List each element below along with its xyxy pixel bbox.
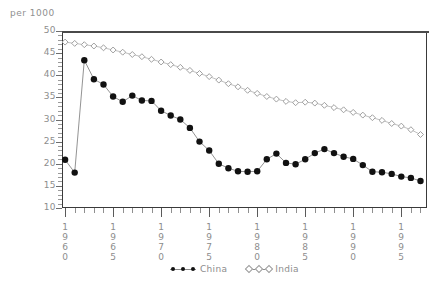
legend-item-india[interactable]: India: [245, 264, 299, 274]
x-axis-minor-tick: [392, 208, 393, 213]
x-axis-minor-tick: [132, 208, 133, 213]
x-axis-major-tick: [209, 208, 210, 217]
x-axis-major-tick: [113, 208, 114, 217]
x-axis-minor-tick: [344, 208, 345, 213]
y-axis-tick-label: 35: [2, 91, 56, 101]
y-axis-labels: 504540353025201510: [0, 0, 56, 287]
x-axis-minor-tick: [219, 208, 220, 213]
x-axis-minor-tick: [363, 208, 364, 213]
x-axis-minor-tick: [123, 208, 124, 213]
x-axis-minor-tick: [94, 208, 95, 213]
y-axis-tick-label: 30: [2, 114, 56, 124]
x-axis-major-tick: [401, 208, 402, 217]
x-axis-major-tick: [305, 208, 306, 217]
x-axis-minor-tick: [372, 208, 373, 213]
x-axis-tick-label: 1985: [298, 222, 312, 262]
chart-legend: ChinaIndia: [170, 262, 299, 276]
x-axis-minor-tick: [276, 208, 277, 213]
x-axis-minor-tick: [324, 208, 325, 213]
x-axis-minor-tick: [200, 208, 201, 213]
plot-frame: [62, 31, 427, 208]
x-axis-major-tick: [65, 208, 66, 217]
x-axis-minor-tick: [315, 208, 316, 213]
x-axis-minor-tick: [228, 208, 229, 213]
legend-key-filled-circle-icon: [170, 269, 196, 270]
x-axis-minor-tick: [190, 208, 191, 213]
x-axis-minor-tick: [286, 208, 287, 213]
x-axis-major-tick: [257, 208, 258, 217]
y-axis-tick-label: 50: [2, 25, 56, 35]
x-axis-major-tick: [161, 208, 162, 217]
legend-key-open-diamond-icon: [245, 269, 271, 270]
x-axis-minor-tick: [75, 208, 76, 213]
x-axis-major-tick: [353, 208, 354, 217]
x-axis-minor-tick: [142, 208, 143, 213]
x-axis-minor-tick: [382, 208, 383, 213]
x-axis-tick-label: 1980: [250, 222, 264, 262]
x-axis-minor-tick: [180, 208, 181, 213]
x-axis-minor-tick: [334, 208, 335, 213]
x-axis-minor-tick: [103, 208, 104, 213]
x-axis-tick-label: 1965: [106, 222, 120, 262]
x-axis-minor-tick: [296, 208, 297, 213]
x-axis-tick-label: 1995: [394, 222, 408, 262]
y-axis-tick-label: 40: [2, 69, 56, 79]
x-axis-tick-label: 1970: [154, 222, 168, 262]
legend-item-china[interactable]: China: [170, 264, 227, 274]
y-axis-tick: [56, 208, 62, 209]
x-axis-minor-tick: [152, 208, 153, 213]
x-axis-minor-tick: [420, 208, 421, 213]
x-axis-tick-label: 1975: [202, 222, 216, 262]
y-axis-tick-label: 10: [2, 202, 56, 212]
x-axis-minor-tick: [84, 208, 85, 213]
legend-label: China: [200, 264, 227, 274]
x-axis-minor-tick: [171, 208, 172, 213]
x-axis-minor-tick: [238, 208, 239, 213]
birth-rate-chart: per 1000 504540353025201510 196019651970…: [0, 0, 444, 287]
legend-label: India: [275, 264, 299, 274]
x-axis-tick-label: 1990: [346, 222, 360, 262]
y-axis-tick-label: 25: [2, 136, 56, 146]
y-axis-tick-label: 20: [2, 158, 56, 168]
x-axis-tick-label: 1960: [58, 222, 72, 262]
y-axis-tick-label: 45: [2, 47, 56, 57]
y-axis-tick-label: 15: [2, 180, 56, 190]
x-axis-minor-tick: [248, 208, 249, 213]
x-axis-minor-tick: [267, 208, 268, 213]
x-axis-minor-tick: [411, 208, 412, 213]
